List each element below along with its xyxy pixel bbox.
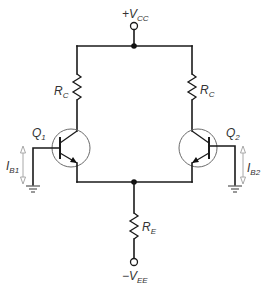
vee-terminal (131, 259, 138, 266)
q1-label: Q1 (32, 126, 46, 142)
rc-right-resistor (188, 46, 196, 131)
vcc-terminal (131, 23, 138, 47)
ground-icon (228, 186, 242, 192)
vcc-label: +VCC (122, 7, 149, 23)
ground-icon (26, 186, 40, 192)
rc-left-label: RC (54, 84, 69, 100)
q2-label: Q2 (226, 126, 240, 142)
re-resistor (130, 182, 138, 259)
ib1-current-arrow-icon (21, 146, 26, 184)
ib2-label: IB2 (247, 161, 261, 177)
q2-base-wire (209, 146, 235, 185)
ib1-label: IB1 (6, 159, 19, 175)
q2-transistor-icon (179, 129, 217, 182)
differential-amplifier-diagram: +VCC RC RC Q1 IB1 (0, 0, 265, 286)
vee-label: −VEE (122, 269, 148, 285)
rc-right-label: RC (200, 83, 215, 99)
ib2-current-arrow-icon (241, 146, 246, 184)
q1-transistor-icon (52, 129, 90, 182)
re-label: RE (142, 220, 157, 236)
q1-base-wire (33, 148, 60, 185)
rc-left-resistor (73, 46, 81, 131)
vcc-junction-dot (131, 43, 137, 49)
